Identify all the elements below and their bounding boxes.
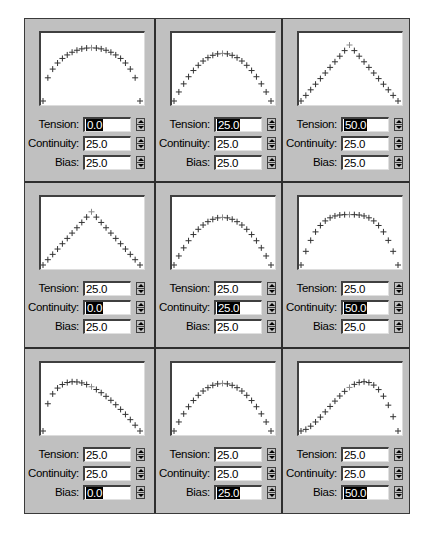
bias-input[interactable]: 0.0 [83, 485, 131, 500]
spinner-up-icon[interactable] [269, 120, 275, 123]
tension-input[interactable]: 50.0 [341, 117, 389, 132]
spinner-up-icon[interactable] [138, 158, 144, 161]
bias-input[interactable]: 25.0 [214, 485, 262, 500]
tension-input[interactable]: 25.0 [341, 447, 389, 462]
spinner-down-icon[interactable] [138, 328, 144, 331]
spinner-down-icon[interactable] [396, 328, 402, 331]
spinner-down-icon[interactable] [269, 494, 275, 497]
tension-input[interactable]: 25.0 [214, 281, 262, 296]
spinner-down-icon[interactable] [138, 494, 144, 497]
spinner-up-icon[interactable] [396, 450, 402, 453]
spinner-down-icon[interactable] [138, 290, 144, 293]
tension-input[interactable]: 25.0 [83, 447, 131, 462]
tension-spinner[interactable] [394, 118, 403, 131]
continuity-spinner[interactable] [136, 301, 145, 314]
spinner-down-icon[interactable] [396, 290, 402, 293]
continuity-spinner[interactable] [267, 301, 276, 314]
bias-input[interactable]: 25.0 [341, 319, 389, 334]
bias-spinner[interactable] [267, 320, 276, 333]
spinner-up-icon[interactable] [269, 488, 275, 491]
bias-input[interactable]: 25.0 [214, 319, 262, 334]
continuity-spinner[interactable] [136, 137, 145, 150]
tension-spinner[interactable] [136, 448, 145, 461]
continuity-input[interactable]: 25.0 [214, 466, 262, 481]
spinner-up-icon[interactable] [138, 322, 144, 325]
bias-spinner[interactable] [394, 486, 403, 499]
spinner-up-icon[interactable] [138, 450, 144, 453]
bias-spinner[interactable] [136, 156, 145, 169]
continuity-input[interactable]: 25.0 [83, 136, 131, 151]
spinner-down-icon[interactable] [269, 164, 275, 167]
spinner-down-icon[interactable] [138, 145, 144, 148]
spinner-down-icon[interactable] [138, 126, 144, 129]
spinner-up-icon[interactable] [269, 303, 275, 306]
bias-spinner[interactable] [267, 486, 276, 499]
spinner-up-icon[interactable] [269, 139, 275, 142]
spinner-down-icon[interactable] [396, 475, 402, 478]
continuity-input[interactable]: 25.0 [214, 136, 262, 151]
spinner-up-icon[interactable] [396, 158, 402, 161]
tension-input[interactable]: 0.0 [83, 117, 131, 132]
spinner-up-icon[interactable] [269, 450, 275, 453]
bias-spinner[interactable] [394, 320, 403, 333]
spinner-down-icon[interactable] [396, 456, 402, 459]
bias-spinner[interactable] [136, 320, 145, 333]
spinner-down-icon[interactable] [138, 456, 144, 459]
tension-input[interactable]: 25.0 [214, 447, 262, 462]
bias-input[interactable]: 25.0 [83, 155, 131, 170]
bias-spinner[interactable] [394, 156, 403, 169]
spinner-down-icon[interactable] [396, 164, 402, 167]
continuity-input[interactable]: 25.0 [214, 300, 262, 315]
spinner-down-icon[interactable] [138, 475, 144, 478]
spinner-up-icon[interactable] [396, 139, 402, 142]
continuity-input[interactable]: 0.0 [83, 300, 131, 315]
tension-spinner[interactable] [394, 282, 403, 295]
bias-input[interactable]: 50.0 [341, 485, 389, 500]
tension-input[interactable]: 25.0 [214, 117, 262, 132]
bias-input[interactable]: 25.0 [83, 319, 131, 334]
tension-input[interactable]: 25.0 [341, 281, 389, 296]
spinner-up-icon[interactable] [396, 120, 402, 123]
spinner-up-icon[interactable] [138, 139, 144, 142]
spinner-up-icon[interactable] [138, 284, 144, 287]
tension-spinner[interactable] [136, 282, 145, 295]
continuity-input[interactable]: 50.0 [341, 300, 389, 315]
spinner-up-icon[interactable] [138, 469, 144, 472]
spinner-down-icon[interactable] [269, 475, 275, 478]
bias-spinner[interactable] [136, 486, 145, 499]
spinner-up-icon[interactable] [138, 303, 144, 306]
tension-spinner[interactable] [267, 118, 276, 131]
spinner-up-icon[interactable] [396, 469, 402, 472]
spinner-up-icon[interactable] [269, 322, 275, 325]
spinner-down-icon[interactable] [396, 309, 402, 312]
spinner-down-icon[interactable] [396, 126, 402, 129]
continuity-spinner[interactable] [394, 467, 403, 480]
spinner-down-icon[interactable] [269, 126, 275, 129]
tension-spinner[interactable] [394, 448, 403, 461]
spinner-down-icon[interactable] [138, 309, 144, 312]
spinner-up-icon[interactable] [138, 488, 144, 491]
spinner-up-icon[interactable] [396, 303, 402, 306]
tension-spinner[interactable] [267, 282, 276, 295]
spinner-down-icon[interactable] [269, 290, 275, 293]
continuity-input[interactable]: 25.0 [83, 466, 131, 481]
spinner-down-icon[interactable] [396, 494, 402, 497]
spinner-down-icon[interactable] [269, 456, 275, 459]
spinner-down-icon[interactable] [269, 145, 275, 148]
spinner-up-icon[interactable] [396, 488, 402, 491]
spinner-down-icon[interactable] [269, 309, 275, 312]
continuity-spinner[interactable] [394, 301, 403, 314]
spinner-down-icon[interactable] [269, 328, 275, 331]
bias-spinner[interactable] [267, 156, 276, 169]
spinner-up-icon[interactable] [269, 284, 275, 287]
bias-input[interactable]: 25.0 [214, 155, 262, 170]
continuity-spinner[interactable] [267, 467, 276, 480]
spinner-down-icon[interactable] [396, 145, 402, 148]
tension-spinner[interactable] [136, 118, 145, 131]
continuity-input[interactable]: 25.0 [341, 466, 389, 481]
tension-input[interactable]: 25.0 [83, 281, 131, 296]
bias-input[interactable]: 25.0 [341, 155, 389, 170]
spinner-up-icon[interactable] [138, 120, 144, 123]
spinner-up-icon[interactable] [396, 322, 402, 325]
continuity-input[interactable]: 25.0 [341, 136, 389, 151]
